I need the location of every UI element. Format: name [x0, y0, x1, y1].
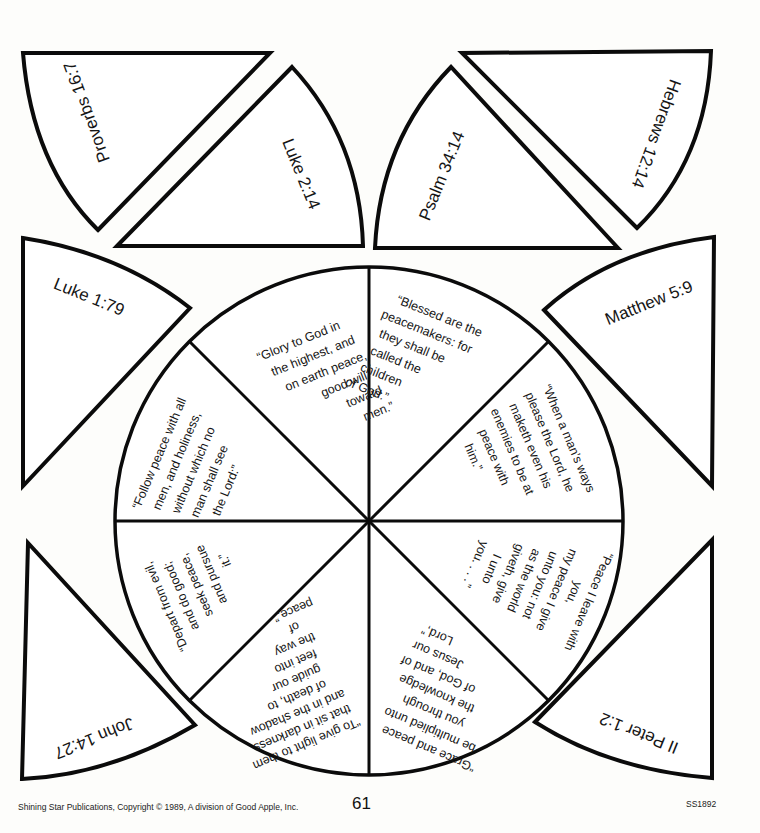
page-number: 61	[352, 794, 371, 814]
verse-wheel	[115, 267, 623, 775]
product-code: SS1892	[686, 799, 716, 809]
worksheet-canvas: Proverbs 16:7 Luke 2:14 Psalm 34:14 Hebr…	[0, 0, 760, 833]
copyright-notice: Shining Star Publications, Copyright © 1…	[18, 802, 298, 812]
